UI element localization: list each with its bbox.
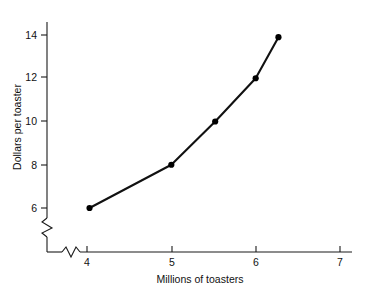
x-axis: 4 5 6 7 Millions of toasters	[47, 246, 352, 285]
y-axis-title: Dollars per toaster	[11, 84, 23, 170]
series-line	[90, 37, 279, 208]
data-point	[275, 34, 281, 40]
data-point	[168, 162, 174, 168]
line-chart: 14 12 10 8 6 Dollars per toaster 4 5 6	[0, 0, 367, 290]
y-tick-label-12: 12	[25, 71, 37, 83]
x-tick-label-5: 5	[169, 256, 175, 268]
y-tick-label-14: 14	[25, 29, 37, 41]
data-point	[212, 118, 218, 124]
x-axis-title: Millions of toasters	[157, 273, 244, 285]
y-axis: 14 12 10 8 6 Dollars per toaster	[11, 22, 52, 252]
data-point	[253, 75, 259, 81]
x-tick-label-7: 7	[337, 256, 343, 268]
x-tick-label-4: 4	[84, 256, 90, 268]
y-tick-label-10: 10	[25, 115, 37, 127]
x-tick-label-6: 6	[253, 256, 259, 268]
data-point	[86, 205, 92, 211]
y-tick-label-6: 6	[31, 202, 37, 214]
data-series-supply	[86, 34, 281, 211]
series-point-group	[86, 34, 281, 211]
y-axis-break-icon	[42, 218, 52, 237]
x-axis-break-icon	[62, 247, 80, 257]
chart-container: 14 12 10 8 6 Dollars per toaster 4 5 6	[0, 0, 367, 290]
y-tick-label-8: 8	[31, 159, 37, 171]
